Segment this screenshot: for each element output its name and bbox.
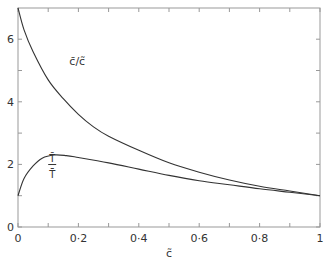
- y-tick-label: 0: [7, 221, 14, 234]
- curve-t-ratio: [18, 155, 320, 196]
- annotation-t-numerator: T̄: [48, 152, 56, 164]
- plot-frame: [18, 8, 320, 227]
- y-tick-label: 2: [7, 158, 14, 171]
- x-tick-label: 0·8: [251, 232, 269, 245]
- labels: 00·20·40·60·810246c̃c̄/c̃T̄T̄̄: [7, 33, 324, 260]
- y-tick-label: 6: [7, 33, 14, 46]
- chart: 00·20·40·60·810246c̃c̄/c̃T̄T̄̄: [0, 0, 329, 260]
- x-tick-label: 0: [15, 232, 22, 245]
- x-axis-label: c̃: [166, 247, 172, 260]
- x-tick-label: 0·4: [130, 232, 148, 245]
- x-tick-label: 1: [317, 232, 324, 245]
- curves: [18, 8, 320, 196]
- annotation-t-denominator: T̄̄: [48, 168, 56, 180]
- annotation-c-ratio: c̄/c̃: [69, 55, 85, 68]
- y-tick-label: 4: [7, 96, 14, 109]
- curve-c-ratio: [18, 8, 320, 196]
- axis-ticks: [18, 8, 320, 227]
- plot-border: [18, 8, 320, 227]
- x-tick-label: 0·2: [70, 232, 88, 245]
- x-tick-label: 0·6: [190, 232, 208, 245]
